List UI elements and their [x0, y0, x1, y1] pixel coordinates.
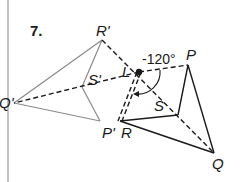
label-s: S [154, 97, 164, 114]
label-center: L [122, 63, 130, 80]
arrow-head-icon [133, 91, 139, 97]
rotation-center [136, 69, 142, 75]
angle-label: -120° [142, 51, 176, 67]
rotation-diagram: 7. R' S' Q' L -120° P S P' R Q [0, 0, 240, 182]
label-q: Q [212, 155, 224, 172]
original-figure [120, 65, 214, 153]
label-p-prime: P' [102, 124, 116, 141]
label-s-prime: S' [88, 71, 102, 88]
label-r: R [121, 124, 132, 141]
problem-number: 7. [30, 22, 43, 39]
label-p: P [186, 46, 196, 63]
label-r-prime: R' [96, 22, 111, 39]
label-q-prime: Q' [0, 94, 15, 111]
